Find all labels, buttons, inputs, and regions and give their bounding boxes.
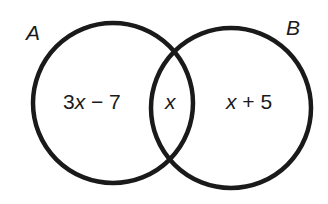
set-a-label: A <box>24 21 40 44</box>
region-a-only-constant: − 7 <box>85 90 121 113</box>
region-a-only-coefficient: 3 <box>63 90 75 113</box>
region-b-only-constant: + 5 <box>237 90 273 113</box>
venn-diagram: A B 3x − 7 x x + 5 <box>0 0 328 204</box>
region-intersection-label: x <box>164 90 177 113</box>
set-b-label: B <box>286 16 300 39</box>
region-b-only-label: x + 5 <box>225 90 272 113</box>
region-a-only-label: 3x − 7 <box>63 90 121 113</box>
